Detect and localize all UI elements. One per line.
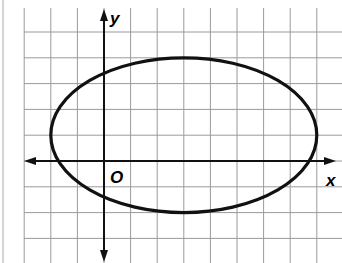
coordinate-plane: y x O [0,0,342,263]
y-axis-label: y [109,9,121,28]
x-axis-label: x [325,171,337,190]
x-axis-left-arrow-icon [24,157,36,165]
y-axis-down-arrow-icon [100,250,108,262]
origin-label: O [110,168,123,187]
grid [24,8,342,263]
x-axis-right-arrow-icon [324,157,336,165]
y-axis-up-arrow-icon [100,9,108,21]
